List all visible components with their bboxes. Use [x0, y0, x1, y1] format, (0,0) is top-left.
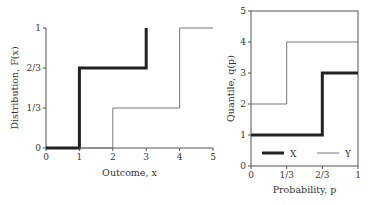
x-tick-label: 1: [77, 152, 83, 162]
plot-frame: [251, 11, 358, 166]
legend-label-x: X: [290, 149, 297, 159]
y-tick-label: 1: [35, 23, 41, 33]
x-axis-label: Probability, p: [273, 184, 337, 195]
x-tick-label: 2/3: [315, 170, 330, 180]
x-tick-label: 0: [43, 152, 49, 162]
x-tick-label: 1/3: [279, 170, 294, 180]
x-tick-label: 2: [110, 152, 116, 162]
x-tick-label: 5: [210, 152, 216, 162]
y-tick-label: 0: [35, 143, 41, 153]
y-tick-label: 0: [240, 161, 246, 171]
x-axis-label: Outcome, x: [102, 167, 157, 178]
cdf-plot: 01234501/32/31Outcome, xDistribution, F(…: [9, 23, 216, 178]
quantile-plot: 01/32/31012345Probability, pQuantile, q(…: [225, 6, 361, 195]
y-tick-label: 1: [240, 130, 246, 140]
y-tick-label: 1/3: [27, 103, 42, 113]
x-tick-label: 4: [177, 152, 183, 162]
y-tick-label: 5: [240, 6, 246, 16]
y-axis-label: Distribution, F(x): [9, 46, 20, 129]
y-tick-label: 2: [240, 99, 246, 109]
y-tick-label: 3: [240, 68, 246, 78]
y-tick-label: 2/3: [27, 63, 42, 73]
y-tick-label: 4: [240, 37, 246, 47]
y-axis-label: Quantile, q(p): [225, 55, 236, 122]
series-x-line: [46, 28, 146, 148]
x-tick-label: 0: [248, 170, 254, 180]
legend-label-y: Y: [344, 149, 352, 159]
figure: 01234501/32/31Outcome, xDistribution, F(…: [0, 0, 375, 205]
x-tick-label: 3: [143, 152, 149, 162]
x-tick-label: 1: [355, 170, 361, 180]
